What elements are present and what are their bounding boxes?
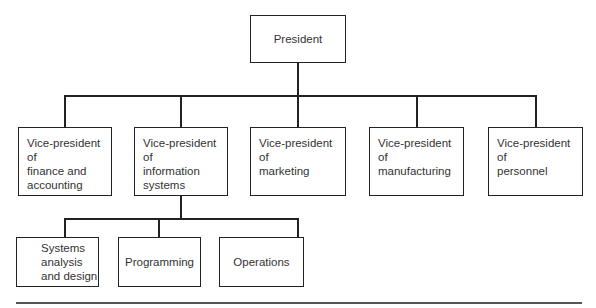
connector-vp-is (180, 95, 182, 128)
vp-finance-box: Vice-president of finance and accounting (18, 127, 112, 196)
connector-vp-personnel (535, 95, 537, 128)
vp-information-systems-label: Vice-president of information systems (143, 136, 223, 192)
vp-manufacturing-box: Vice-president of manufacturing (369, 127, 464, 196)
systems-analysis-box: Systems analysis and design (16, 237, 99, 287)
connector-programming (158, 218, 160, 238)
connector-vp-bus (64, 95, 537, 97)
connector-vp-marketing (297, 95, 299, 128)
bottom-divider (16, 302, 582, 304)
vp-personnel-label: Vice-president of personnel (497, 136, 578, 178)
president-box: President (250, 15, 346, 63)
programming-label: Programming (125, 255, 194, 269)
connector-president-down (297, 62, 299, 96)
vp-information-systems-box: Vice-president of information systems (134, 127, 228, 196)
programming-box: Programming (118, 237, 201, 287)
operations-box: Operations (219, 237, 304, 287)
vp-marketing-box: Vice-president of marketing (250, 127, 346, 196)
vp-personnel-box: Vice-president of personnel (488, 127, 583, 196)
vp-finance-label: Vice-president of finance and accounting (27, 136, 107, 192)
connector-operations (297, 218, 299, 238)
operations-label: Operations (233, 255, 289, 269)
connector-vp-finance (64, 95, 66, 128)
systems-analysis-label: Systems analysis and design (17, 241, 97, 283)
connector-sad (64, 218, 66, 238)
vp-manufacturing-label: Vice-president of manufacturing (378, 136, 459, 178)
connector-vp-manufacturing (416, 95, 418, 128)
connector-is-bus (64, 218, 299, 220)
vp-marketing-label: Vice-president of marketing (259, 136, 341, 178)
connector-is-down (180, 195, 182, 219)
president-label: President (274, 32, 323, 46)
